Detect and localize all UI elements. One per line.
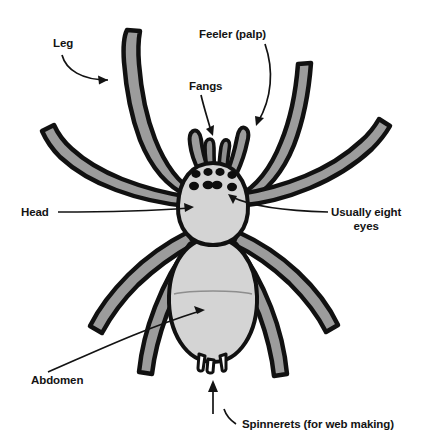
leg-left-1 — [124, 30, 196, 196]
eye-5 — [189, 182, 199, 190]
abdomen-body — [169, 238, 257, 362]
leader-leg — [62, 55, 108, 80]
spinneret-left — [198, 354, 205, 371]
arrowhead-spinnerets — [208, 380, 218, 392]
eye-8 — [227, 183, 237, 191]
head-body — [178, 163, 248, 245]
leader-feeler — [258, 44, 270, 122]
eye-4 — [227, 171, 236, 179]
eye-3 — [215, 168, 224, 176]
leg-right-2 — [239, 119, 390, 206]
eye-7 — [212, 181, 223, 189]
spider-cephalothorax — [178, 163, 248, 245]
arrowhead-feeler — [255, 116, 264, 126]
eye-2 — [203, 168, 212, 176]
label-fangs: Fangs — [189, 79, 222, 93]
spider-abdomen — [169, 238, 257, 362]
leader-head — [58, 208, 189, 212]
label-feeler-palp: Feeler (palp) — [199, 27, 266, 41]
label-usually-eight-eyes: Usually eight eyes — [331, 205, 401, 234]
leader-spinnerets-hook — [224, 409, 236, 424]
arrowhead-leg — [98, 76, 108, 85]
leader-fangs — [201, 95, 211, 131]
label-spinnerets: Spinnerets (for web making) — [242, 417, 394, 431]
label-leg: Leg — [53, 36, 73, 50]
label-eyes-line-2: eyes — [331, 219, 401, 233]
eye-1 — [191, 170, 200, 178]
label-eyes-line-1: Usually eight — [331, 205, 401, 219]
spider-anatomy-figure: Leg Feeler (palp) Fangs Head Usually eig… — [0, 0, 422, 447]
spinneret-middle — [207, 359, 214, 373]
label-head: Head — [21, 205, 49, 219]
spinneret-right — [220, 354, 226, 371]
label-abdomen: Abdomen — [31, 373, 83, 387]
